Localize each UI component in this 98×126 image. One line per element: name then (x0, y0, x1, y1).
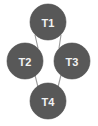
node-label-t2: T2 (18, 56, 31, 68)
diagram-canvas: T1 T2 T3 T4 (0, 0, 98, 126)
node-t3[interactable]: T3 (54, 43, 90, 79)
node-label-t4: T4 (41, 96, 55, 108)
node-label-t3: T3 (65, 56, 78, 68)
node-t1[interactable]: T1 (30, 4, 66, 40)
graph-diagram: T1 T2 T3 T4 (0, 0, 98, 126)
edge-t3-t4 (58, 75, 61, 87)
edge-t2-t4 (35, 75, 38, 87)
node-t4[interactable]: T4 (30, 83, 66, 119)
node-t2[interactable]: T2 (7, 43, 43, 79)
node-label-t1: T1 (41, 17, 54, 29)
edge-t1-t3 (59, 35, 61, 48)
